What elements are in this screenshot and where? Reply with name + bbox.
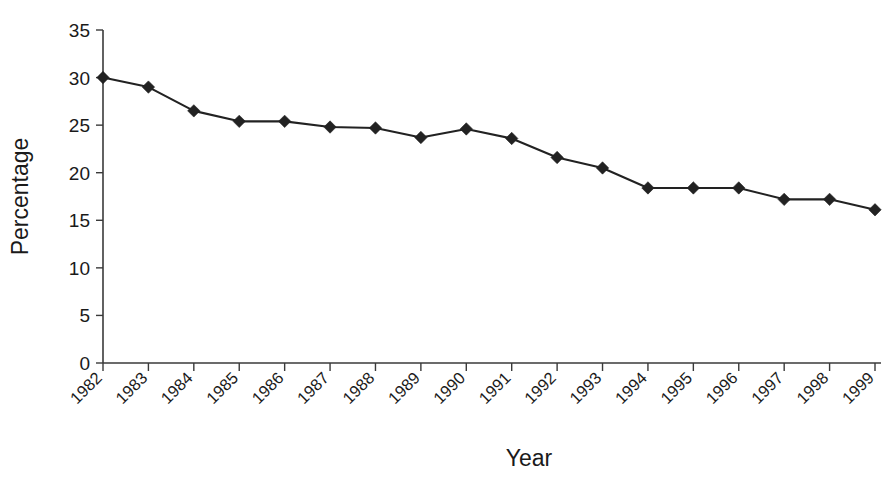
- data-point-marker: 1985: 25.4: [233, 115, 245, 127]
- data-point-marker: 1992: 21.6: [551, 151, 563, 163]
- x-axis-tick-label: 1982: [66, 368, 105, 407]
- data-point-marker: 1987: 24.8: [324, 121, 336, 133]
- data-point-marker: 1995: 18.4: [687, 182, 699, 194]
- y-axis-tick-label: 0: [79, 353, 90, 374]
- line-chart: 05101520253035 1982198319841985198619871…: [0, 0, 889, 482]
- x-axis-tick-label: 1987: [293, 368, 332, 407]
- data-point-marker: 1993: 20.5: [596, 162, 608, 174]
- x-axis-tick-label: 1999: [838, 368, 877, 407]
- x-axis-tick-label: 1994: [611, 368, 650, 407]
- data-point-marker: 1990: 24.6: [460, 123, 472, 135]
- y-axis-tick-label: 25: [69, 115, 90, 136]
- y-axis-tick-label: 20: [69, 163, 90, 184]
- y-axis-tick-label: 15: [69, 210, 90, 231]
- x-axis-tick-label: 1991: [475, 368, 514, 407]
- series-line-percentage: [103, 78, 875, 210]
- x-axis-tick-label: 1998: [793, 368, 832, 407]
- x-axis-tick-label: 1990: [430, 368, 469, 407]
- x-axis-tick-label: 1985: [203, 368, 242, 407]
- data-point-marker: 1983: 29: [142, 81, 154, 93]
- data-point-marker: 1996: 18.4: [733, 182, 745, 194]
- data-point-marker: 1984: 26.5: [188, 105, 200, 117]
- x-axis-tick-label: 1992: [521, 368, 560, 407]
- y-axis-tick-label: 10: [69, 258, 90, 279]
- data-point-marker: 1999: 16.1: [869, 204, 881, 216]
- data-point-marker: 1989: 23.7: [415, 131, 427, 143]
- x-axis-tick-label: 1997: [748, 368, 787, 407]
- y-axis-tick-label: 5: [79, 305, 90, 326]
- x-axis-tick-label: 1988: [339, 368, 378, 407]
- data-series-percentage: 1982: 301983: 291984: 26.51985: 25.41986…: [97, 71, 881, 216]
- x-axis: 1982198319841985198619871988198919901991…: [66, 363, 881, 407]
- x-axis-tick-label: 1996: [702, 368, 741, 407]
- x-axis-tick-label: 1986: [248, 368, 287, 407]
- data-point-marker: 1986: 25.4: [278, 115, 290, 127]
- x-axis-title: Year: [506, 445, 553, 471]
- data-point-marker: 1982: 30: [97, 71, 109, 83]
- y-axis-tick-label: 30: [69, 68, 90, 89]
- x-axis-tick-label: 1983: [112, 368, 151, 407]
- data-point-marker: 1998: 17.2: [823, 193, 835, 205]
- y-axis-title: Percentage: [7, 138, 33, 256]
- data-point-marker: 1991: 23.6: [506, 132, 518, 144]
- x-axis-tick-label: 1993: [566, 368, 605, 407]
- data-point-marker: 1994: 18.4: [642, 182, 654, 194]
- chart-canvas: 05101520253035 1982198319841985198619871…: [0, 0, 889, 482]
- y-axis: 05101520253035: [69, 20, 103, 374]
- x-axis-tick-label: 1995: [657, 368, 696, 407]
- x-axis-tick-label: 1989: [384, 368, 423, 407]
- y-axis-tick-label: 35: [69, 20, 90, 41]
- x-axis-tick-label: 1984: [157, 368, 196, 407]
- data-point-marker: 1997: 17.2: [778, 193, 790, 205]
- data-point-marker: 1988: 24.7: [369, 122, 381, 134]
